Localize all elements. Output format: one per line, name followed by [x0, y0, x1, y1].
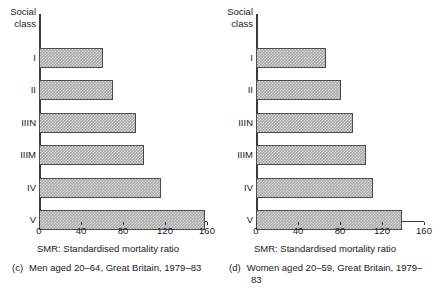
bar-i — [256, 48, 326, 68]
bar-row — [39, 145, 207, 165]
bar-ii — [39, 80, 113, 100]
chart-panel-c: Social class 04080120160 IIIIIINIIIMIVV … — [0, 0, 216, 291]
category-label-v: V — [219, 210, 253, 230]
x-tick-label-120: 120 — [150, 225, 180, 236]
category-label-iiim: IIIM — [219, 145, 253, 165]
bar-row — [39, 48, 207, 68]
y-axis-title-c: Social class — [2, 6, 36, 29]
x-tick-label-160: 160 — [409, 225, 433, 236]
bar-row — [256, 48, 424, 68]
bar-iiim — [256, 145, 366, 165]
category-label-v: V — [2, 210, 36, 230]
caption-tag-c: (c) — [12, 262, 23, 273]
category-label-iiim: IIIM — [2, 145, 36, 165]
category-label-ii: II — [219, 80, 253, 100]
bar-ii — [256, 80, 341, 100]
x-axis-label-c: SMR: Standardised mortality ratio — [0, 243, 216, 254]
caption-text-d: Women aged 20–59, Great Britain, 1979–83 — [247, 262, 423, 285]
bar-row — [256, 113, 424, 133]
x-tick-label-120: 120 — [367, 225, 397, 236]
bar-iv — [256, 178, 373, 198]
category-label-i: I — [2, 48, 36, 68]
bar-row — [39, 80, 207, 100]
category-label-ii: II — [2, 80, 36, 100]
plot-area-c: 04080120160 — [39, 14, 207, 222]
x-tick-label-80: 80 — [325, 225, 355, 236]
category-label-iiin: IIIN — [219, 113, 253, 133]
bar-row — [256, 80, 424, 100]
bar-iv — [39, 178, 161, 198]
y-axis-title-line1: Social — [2, 6, 36, 18]
y-axis-title-line2: class — [2, 18, 36, 30]
category-label-i: I — [219, 48, 253, 68]
category-label-iiin: IIIN — [2, 113, 36, 133]
y-axis-title-line1: Social — [219, 6, 253, 18]
bar-row — [256, 145, 424, 165]
category-label-iv: IV — [219, 178, 253, 198]
bar-iiim — [39, 145, 144, 165]
caption-text-c: Men aged 20–64, Great Britain, 1979–83 — [29, 262, 201, 273]
chart-panel-d: Social class 04080120160 IIIIIINIIIMIVV … — [217, 0, 433, 291]
bar-row — [39, 113, 207, 133]
bar-row — [256, 178, 424, 198]
figure-root: Social class 04080120160 IIIIIINIIIMIVV … — [0, 0, 433, 291]
x-tick-label-80: 80 — [108, 225, 138, 236]
caption-d: (d)Women aged 20–59, Great Britain, 1979… — [217, 262, 433, 286]
bar-i — [39, 48, 103, 68]
bar-row — [39, 178, 207, 198]
category-label-iv: IV — [2, 178, 36, 198]
caption-c: (c)Men aged 20–64, Great Britain, 1979–8… — [0, 262, 216, 274]
x-axis-label-d: SMR: Standardised mortality ratio — [217, 243, 433, 254]
bar-iiin — [39, 113, 136, 133]
x-tick-label-40: 40 — [283, 225, 313, 236]
caption-tag-d: (d) — [229, 262, 241, 273]
y-axis-title-line2: class — [219, 18, 253, 30]
bar-iiin — [256, 113, 353, 133]
x-tick-label-40: 40 — [66, 225, 96, 236]
y-axis-title-d: Social class — [219, 6, 253, 29]
plot-area-d: 04080120160 — [256, 14, 424, 222]
